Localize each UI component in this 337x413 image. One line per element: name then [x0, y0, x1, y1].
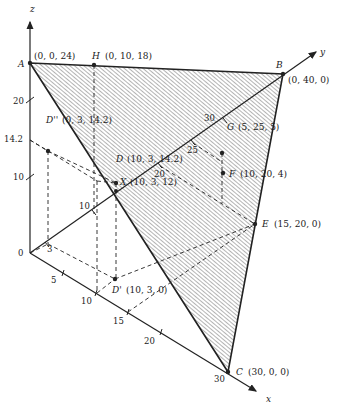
coords-b: (0, 40, 0) — [288, 75, 329, 85]
z-axis-label: z — [29, 4, 35, 14]
x-tick-label-10: 10 — [81, 296, 92, 306]
x-axis-label: x — [266, 394, 271, 404]
label-d: D — [115, 154, 123, 164]
z-tick-label-10: 10 — [13, 172, 24, 182]
y-tick-label-30: 30 — [204, 113, 215, 123]
point-d-double-prime — [46, 149, 50, 153]
coords-f: (10, 20, 4) — [240, 169, 287, 179]
coords-h: (0, 10, 18) — [105, 51, 152, 61]
coords-d-double-prime: (0, 3, 14.2) — [62, 115, 112, 125]
label-h: H — [91, 51, 100, 61]
label-d-prime: D' — [111, 285, 122, 295]
point-a — [28, 61, 32, 65]
label-b: B — [275, 60, 283, 70]
coords-g: (5, 25, 5) — [238, 122, 279, 132]
y-tick-label-3: 3 — [47, 244, 52, 254]
diagram-canvas: z y x 0 20 14.2 10 3 10 20 25 30 5 10 15… — [0, 0, 337, 413]
label-a: A — [17, 59, 25, 69]
x-tick-label-15: 15 — [113, 316, 124, 326]
point-f — [221, 171, 225, 175]
point-c — [226, 370, 230, 374]
z-tick-label-14-2: 14.2 — [4, 134, 23, 144]
label-c: C — [236, 367, 243, 377]
coords-e: (15, 20, 0) — [274, 219, 321, 229]
label-d-double-prime: D'' — [45, 115, 58, 125]
label-x: X — [119, 177, 127, 187]
label-f: F — [228, 169, 236, 179]
coords-d-prime: (10, 3, 0) — [126, 285, 167, 295]
y-tick-label-25: 25 — [187, 145, 198, 155]
point-x — [114, 189, 118, 193]
point-h — [92, 63, 96, 67]
y-axis-label: y — [319, 47, 326, 57]
point-g — [220, 151, 224, 155]
point-d — [114, 181, 118, 185]
x-tick-label-30: 30 — [214, 374, 225, 384]
x-tick-label-5: 5 — [51, 275, 56, 285]
coords-c: (30, 0, 0) — [248, 367, 289, 377]
y-tick-label-10: 10 — [79, 201, 90, 211]
label-g: G — [227, 122, 234, 132]
coords-d: (10, 3, 14.2) — [127, 154, 183, 164]
point-d-prime — [113, 277, 117, 281]
point-e — [253, 222, 257, 226]
coords-x: (10, 3, 12) — [130, 177, 177, 187]
x-tick-label-20: 20 — [144, 336, 155, 346]
coords-a: (0, 0, 24) — [34, 51, 75, 61]
origin-label: 0 — [18, 248, 23, 258]
label-e: E — [261, 219, 269, 229]
z-tick-label-20: 20 — [13, 96, 24, 106]
point-b — [281, 72, 285, 76]
